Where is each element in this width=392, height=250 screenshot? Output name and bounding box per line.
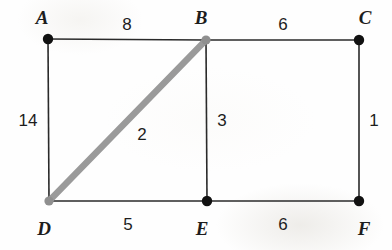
edge-line-AD <box>48 39 49 201</box>
edge-weight-BC: 6 <box>278 16 287 33</box>
vertex-label-E: E <box>196 219 209 238</box>
edge-weight-EF: 6 <box>278 216 287 233</box>
diagram-canvas: A B C D E F 8 6 14 3 1 5 6 2 <box>0 0 392 250</box>
edge-weight-AB: 8 <box>122 16 131 33</box>
edge-line-DB-diagonal <box>49 40 206 201</box>
edge-weight-AD: 14 <box>19 112 38 129</box>
edge-line-AB <box>48 39 206 40</box>
vertex-dot-C <box>354 35 364 45</box>
edge-weight-DE: 5 <box>123 216 132 233</box>
vertex-dot-E <box>202 196 212 206</box>
edge-weight-CF: 1 <box>369 112 378 129</box>
edge-line-BE <box>206 40 207 201</box>
vertex-label-D: D <box>37 219 51 238</box>
edge-weight-BE: 3 <box>217 112 226 129</box>
edge-weight-DB-diagonal: 2 <box>137 126 146 143</box>
vertex-dot-D <box>44 196 53 205</box>
vertex-label-A: A <box>36 8 49 27</box>
vertex-label-C: C <box>359 8 372 27</box>
vertex-dot-B <box>201 35 210 44</box>
geometry-figure <box>0 0 392 250</box>
vertex-label-F: F <box>358 219 371 238</box>
vertex-dot-A <box>43 34 53 44</box>
vertex-label-B: B <box>195 8 208 27</box>
vertex-dot-F <box>354 196 364 206</box>
